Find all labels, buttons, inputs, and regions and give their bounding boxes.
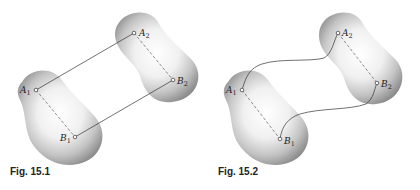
point-b2: [375, 81, 379, 85]
line-b1-b2: [75, 80, 173, 137]
fig-15-1: A1 B1 A2 B2: [18, 12, 199, 164]
point-b2: [171, 78, 175, 82]
point-a1: [34, 88, 38, 92]
caption-fig-15-2: Fig. 15.2: [218, 166, 258, 177]
caption-fig-15-1: Fig. 15.1: [10, 166, 50, 177]
point-b1: [73, 135, 77, 139]
point-a1: [240, 88, 244, 92]
fig-15-2: A1 B1 A2 B2: [224, 12, 403, 164]
point-b1: [278, 137, 282, 141]
rigid-body-2: [115, 12, 198, 102]
line-a1-a2: [36, 33, 134, 90]
point-a2: [336, 31, 340, 35]
rigid-body-1: [18, 70, 103, 164]
point-a2: [132, 31, 136, 35]
figure-canvas: A1 B1 A2 B2 A1 B1 A2 B2: [0, 0, 420, 190]
rigid-body-1: [224, 70, 309, 164]
